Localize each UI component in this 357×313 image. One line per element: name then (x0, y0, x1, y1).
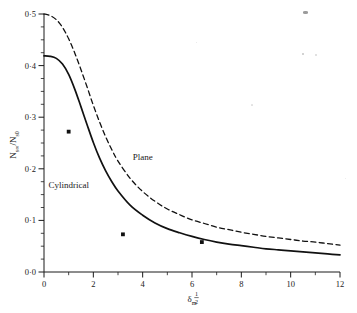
x-tick-label: 12 (336, 279, 345, 289)
y-tick-label: 0·0 (25, 267, 36, 277)
svg-text:Ns∞/Ns0: Ns∞/Ns0 (8, 131, 20, 158)
x-tick-label: 10 (286, 279, 295, 289)
x-tick-label: 6 (190, 279, 194, 289)
axes-group: 0·00·10·20·30·40·5024681012 (25, 9, 345, 289)
y-tick-label: 0·5 (25, 9, 36, 19)
scan-speck (303, 11, 308, 14)
plane-curve-label: Plane (133, 152, 153, 162)
x-axis-title: δm12 (188, 291, 199, 306)
svg-text:2: 2 (195, 299, 198, 305)
scan-speck (302, 53, 304, 55)
x-tick-label: 4 (141, 279, 146, 289)
x-tick-label: 2 (91, 279, 95, 289)
scan-speck (251, 104, 253, 106)
y-tick-label: 0·2 (25, 164, 36, 174)
y-tick-label: 0·3 (25, 112, 36, 122)
data-point-marker (121, 232, 125, 236)
scan-speck (315, 54, 317, 56)
x-tick-label: 0 (42, 279, 46, 289)
figure-container: 0·00·10·20·30·40·5024681012 PlaneCylindr… (0, 0, 357, 313)
y-tick-label: 0·1 (25, 215, 36, 225)
curve-cylindrical (44, 56, 340, 255)
y-axis-title: Ns∞/Ns0 (8, 131, 20, 158)
cylindrical-curve-label: Cylindrical (48, 180, 89, 190)
y-tick-label: 0·4 (25, 61, 37, 71)
chart-plot: 0·00·10·20·30·40·5024681012 PlaneCylindr… (0, 0, 357, 313)
curves-group (44, 14, 340, 255)
axis-labels-group: PlaneCylindricalNs∞/Ns0δm12 (8, 131, 199, 305)
x-tick-label: 8 (239, 279, 243, 289)
svg-text:1: 1 (195, 291, 198, 297)
data-point-marker (200, 240, 204, 244)
data-point-marker (67, 130, 71, 134)
